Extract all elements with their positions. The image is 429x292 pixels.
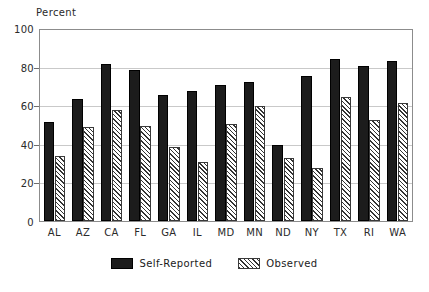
x-tick-label: MN bbox=[246, 227, 263, 238]
bar-self-reported bbox=[301, 76, 312, 221]
x-tick-label: AZ bbox=[76, 227, 90, 238]
bar-observed bbox=[198, 162, 209, 221]
bar-observed bbox=[169, 147, 180, 221]
bar-observed bbox=[369, 120, 380, 221]
bar-group bbox=[383, 30, 412, 221]
x-tick-label: WA bbox=[389, 227, 406, 238]
bar-self-reported bbox=[129, 70, 140, 221]
bar-observed bbox=[83, 127, 94, 221]
x-tick-label: ND bbox=[275, 227, 291, 238]
y-tick-mark bbox=[34, 106, 39, 107]
bar-self-reported bbox=[72, 99, 83, 221]
y-tick-label: 60 bbox=[8, 101, 34, 112]
y-tick-label: 0 bbox=[8, 217, 34, 228]
chart-legend: Self-ReportedObserved bbox=[0, 258, 429, 269]
x-tick-label: RI bbox=[364, 227, 375, 238]
bar-group bbox=[212, 30, 241, 221]
bar-group bbox=[154, 30, 183, 221]
bar-observed bbox=[284, 158, 295, 221]
y-tick-mark bbox=[34, 68, 39, 69]
bar-group bbox=[326, 30, 355, 221]
bar-self-reported bbox=[44, 122, 55, 221]
legend-label: Self-Reported bbox=[139, 258, 212, 269]
bar-observed bbox=[140, 126, 151, 222]
x-tick-label: GA bbox=[161, 227, 176, 238]
y-axis-title: Percent bbox=[36, 7, 76, 18]
bar-group bbox=[183, 30, 212, 221]
bars-layer bbox=[40, 30, 412, 221]
y-tick-mark bbox=[34, 145, 39, 146]
bar-self-reported bbox=[215, 85, 226, 221]
legend-label: Observed bbox=[266, 258, 317, 269]
y-tick-label: 20 bbox=[8, 178, 34, 189]
y-tick-label: 40 bbox=[8, 139, 34, 150]
bar-chart: Percent 020406080100 ALAZCAFLGAILMDMNNDN… bbox=[0, 0, 429, 292]
bar-observed bbox=[398, 103, 409, 221]
legend-item: Observed bbox=[238, 258, 317, 269]
bar-observed bbox=[55, 156, 66, 221]
bar-group bbox=[240, 30, 269, 221]
x-tick-label: AL bbox=[48, 227, 61, 238]
x-tick-label: IL bbox=[193, 227, 202, 238]
bar-group bbox=[97, 30, 126, 221]
bar-self-reported bbox=[272, 145, 283, 221]
y-tick-label: 80 bbox=[8, 62, 34, 73]
legend-swatch-observed bbox=[238, 258, 260, 269]
legend-swatch-self-reported bbox=[111, 258, 133, 269]
bar-self-reported bbox=[387, 61, 398, 221]
bar-group bbox=[355, 30, 384, 221]
bar-group bbox=[298, 30, 327, 221]
bar-group bbox=[269, 30, 298, 221]
bar-self-reported bbox=[187, 91, 198, 221]
bar-observed bbox=[226, 124, 237, 221]
x-tick-label: TX bbox=[334, 227, 348, 238]
bar-self-reported bbox=[244, 82, 255, 221]
bar-observed bbox=[312, 168, 323, 221]
y-tick-label: 100 bbox=[8, 24, 34, 35]
bar-observed bbox=[255, 106, 266, 221]
x-tick-label: NY bbox=[305, 227, 319, 238]
x-tick-label: CA bbox=[104, 227, 118, 238]
bar-self-reported bbox=[330, 59, 341, 221]
x-tick-label: FL bbox=[134, 227, 146, 238]
bar-observed bbox=[112, 110, 123, 221]
legend-item: Self-Reported bbox=[111, 258, 212, 269]
bar-observed bbox=[341, 97, 352, 221]
y-tick-mark bbox=[34, 183, 39, 184]
bar-self-reported bbox=[358, 66, 369, 221]
bar-group bbox=[69, 30, 98, 221]
bar-self-reported bbox=[158, 95, 169, 221]
bar-self-reported bbox=[101, 64, 112, 221]
x-tick-label: MD bbox=[218, 227, 235, 238]
bar-group bbox=[126, 30, 155, 221]
bar-group bbox=[40, 30, 69, 221]
